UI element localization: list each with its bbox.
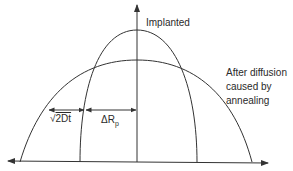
implanted-profile-curve (80, 30, 197, 162)
after-diffusion-line2: caused by (226, 80, 287, 94)
x-axis-left (8, 161, 137, 162)
implanted-label: Implanted (146, 17, 190, 29)
annealed-profile-curve (20, 60, 252, 162)
delta-r-text: ΔR (101, 114, 115, 125)
delta-rp-label: ΔRp (101, 114, 119, 130)
after-diffusion-line1: After diffusion (226, 66, 287, 80)
x-axis (137, 162, 268, 163)
sqrt-2dt-label: √2Dt (50, 113, 71, 125)
delta-r-subscript: p (115, 120, 119, 127)
after-diffusion-label: After diffusion caused by annealing (226, 66, 287, 108)
after-diffusion-line3: annealing (226, 94, 287, 108)
sqrt-argument: 2Dt (56, 113, 72, 124)
